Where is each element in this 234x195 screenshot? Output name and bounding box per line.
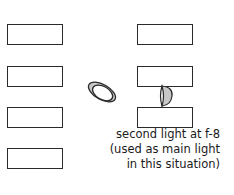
left-box-4 <box>7 148 63 169</box>
left-box-3 <box>7 107 63 128</box>
right-box-1 <box>137 24 193 45</box>
right-box-2 <box>137 66 193 87</box>
caption-line-3: in this situation) <box>90 157 220 172</box>
caption-line-2: (used as main light <box>90 142 220 157</box>
second-light-icon <box>158 85 174 107</box>
first-light-icon <box>84 78 120 106</box>
left-box-2 <box>7 66 63 87</box>
caption-line-1: second light at f-8 <box>90 127 220 142</box>
left-box-1 <box>7 24 63 45</box>
right-box-3 <box>137 107 193 128</box>
second-light-caption: second light at f-8 (used as main light … <box>90 127 220 172</box>
